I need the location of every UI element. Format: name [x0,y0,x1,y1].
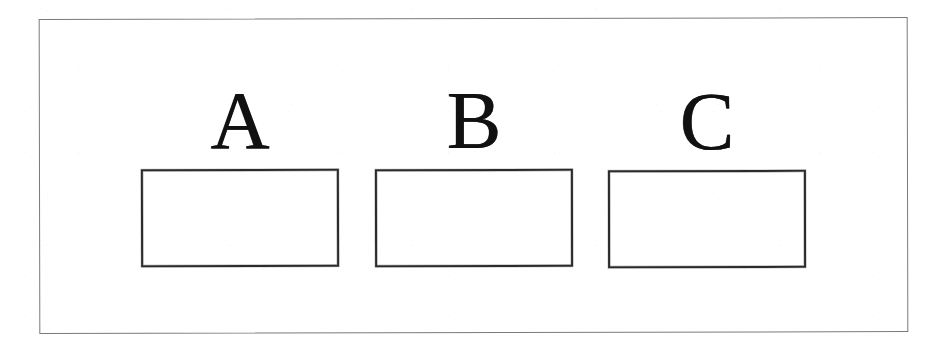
diagram-screenshot: A B C [0,0,944,351]
column-a: A [141,80,339,268]
column-a-label: A [141,80,339,162]
column-b-box[interactable] [375,169,573,267]
column-group: A B C [0,0,944,351]
column-c-label: C [608,81,806,163]
column-a-box[interactable] [141,169,339,268]
column-c-box[interactable] [608,170,806,268]
column-b-label: B [375,80,573,162]
column-b: B [375,80,573,268]
column-c: C [608,81,806,269]
